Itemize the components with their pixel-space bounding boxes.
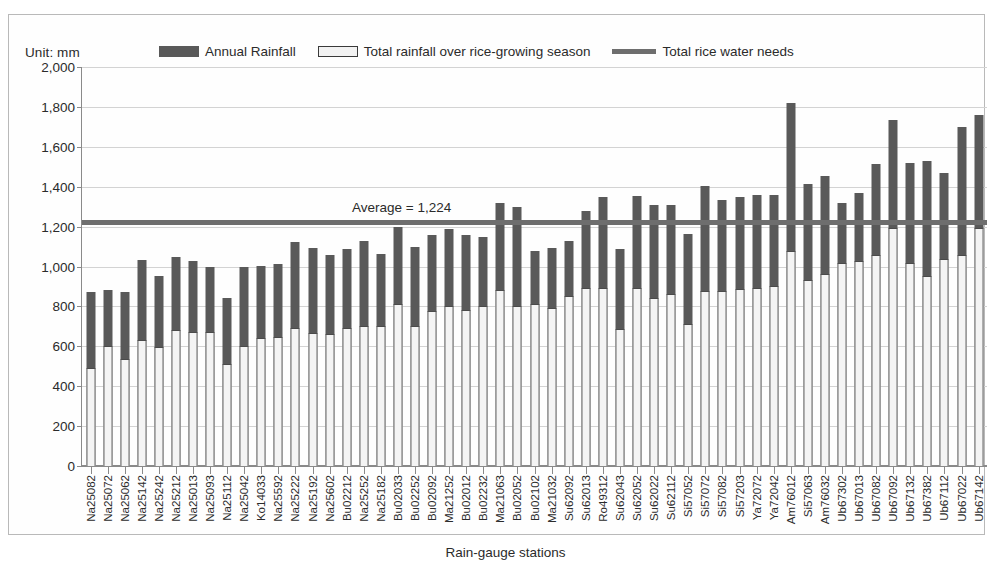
bar-group[interactable] (731, 67, 748, 466)
season-rainfall-bar[interactable] (684, 324, 693, 466)
bar-group[interactable] (424, 67, 441, 466)
bar-group[interactable] (167, 67, 184, 466)
bar-group[interactable] (82, 67, 99, 466)
season-rainfall-bar[interactable] (274, 337, 283, 466)
season-rainfall-bar[interactable] (889, 228, 898, 466)
season-rainfall-bar[interactable] (735, 289, 744, 466)
bar-group[interactable] (509, 67, 526, 466)
season-rainfall-bar[interactable] (479, 306, 488, 466)
bar-group[interactable] (765, 67, 782, 466)
bar-group[interactable] (116, 67, 133, 466)
season-rainfall-bar[interactable] (769, 286, 778, 466)
season-rainfall-bar[interactable] (171, 330, 180, 466)
season-rainfall-bar[interactable] (103, 346, 112, 466)
season-rainfall-bar[interactable] (906, 263, 915, 466)
season-rainfall-bar[interactable] (189, 332, 198, 466)
season-rainfall-bar[interactable] (803, 280, 812, 466)
bar-group[interactable] (953, 67, 970, 466)
season-rainfall-bar[interactable] (411, 326, 420, 466)
bar-group[interactable] (680, 67, 697, 466)
bar-group[interactable] (902, 67, 919, 466)
bar-group[interactable] (885, 67, 902, 466)
bar-group[interactable] (287, 67, 304, 466)
season-rainfall-bar[interactable] (308, 333, 317, 466)
bar-group[interactable] (475, 67, 492, 466)
bar-group[interactable] (304, 67, 321, 466)
bar-group[interactable] (338, 67, 355, 466)
bar-group[interactable] (833, 67, 850, 466)
season-rainfall-bar[interactable] (837, 263, 846, 466)
bar-group[interactable] (441, 67, 458, 466)
season-rainfall-bar[interactable] (325, 334, 334, 466)
season-rainfall-bar[interactable] (820, 274, 829, 466)
season-rainfall-bar[interactable] (581, 288, 590, 466)
bar-group[interactable] (253, 67, 270, 466)
bar-group[interactable] (184, 67, 201, 466)
bar-group[interactable] (458, 67, 475, 466)
bar-group[interactable] (270, 67, 287, 466)
season-rainfall-bar[interactable] (701, 291, 710, 466)
season-rainfall-bar[interactable] (223, 364, 232, 466)
bar-group[interactable] (936, 67, 953, 466)
bar-group[interactable] (355, 67, 372, 466)
bar-group[interactable] (389, 67, 406, 466)
bar-group[interactable] (629, 67, 646, 466)
season-rainfall-bar[interactable] (428, 311, 437, 466)
season-rainfall-bar[interactable] (513, 306, 522, 466)
season-rainfall-bar[interactable] (598, 288, 607, 466)
bar-group[interactable] (970, 67, 987, 466)
season-rainfall-bar[interactable] (940, 259, 949, 466)
season-rainfall-bar[interactable] (786, 251, 795, 466)
bar-group[interactable] (919, 67, 936, 466)
bar-group[interactable] (816, 67, 833, 466)
bar-group[interactable] (697, 67, 714, 466)
season-rainfall-bar[interactable] (359, 326, 368, 466)
season-rainfall-bar[interactable] (206, 332, 215, 466)
season-rainfall-bar[interactable] (120, 359, 129, 466)
bar-group[interactable] (799, 67, 816, 466)
season-rainfall-bar[interactable] (633, 288, 642, 466)
season-rainfall-bar[interactable] (923, 276, 932, 466)
bar-group[interactable] (99, 67, 116, 466)
bar-group[interactable] (202, 67, 219, 466)
season-rainfall-bar[interactable] (462, 310, 471, 466)
season-rainfall-bar[interactable] (564, 296, 573, 466)
bar-group[interactable] (868, 67, 885, 466)
season-rainfall-bar[interactable] (376, 326, 385, 466)
bar-group[interactable] (321, 67, 338, 466)
bar-group[interactable] (236, 67, 253, 466)
season-rainfall-bar[interactable] (291, 328, 300, 466)
bar-group[interactable] (406, 67, 423, 466)
season-rainfall-bar[interactable] (718, 291, 727, 466)
bar-group[interactable] (577, 67, 594, 466)
season-rainfall-bar[interactable] (615, 329, 624, 466)
bar-group[interactable] (663, 67, 680, 466)
season-rainfall-bar[interactable] (872, 255, 881, 466)
season-rainfall-bar[interactable] (530, 304, 539, 466)
bar-group[interactable] (611, 67, 628, 466)
bar-group[interactable] (150, 67, 167, 466)
season-rainfall-bar[interactable] (496, 290, 505, 466)
season-rainfall-bar[interactable] (667, 294, 676, 466)
bar-group[interactable] (714, 67, 731, 466)
bar-group[interactable] (372, 67, 389, 466)
season-rainfall-bar[interactable] (86, 368, 95, 466)
season-rainfall-bar[interactable] (257, 338, 266, 466)
bar-group[interactable] (526, 67, 543, 466)
season-rainfall-bar[interactable] (547, 308, 556, 466)
season-rainfall-bar[interactable] (393, 304, 402, 466)
bar-group[interactable] (543, 67, 560, 466)
bar-group[interactable] (748, 67, 765, 466)
season-rainfall-bar[interactable] (240, 346, 249, 466)
season-rainfall-bar[interactable] (650, 298, 659, 466)
season-rainfall-bar[interactable] (445, 306, 454, 466)
season-rainfall-bar[interactable] (342, 328, 351, 466)
season-rainfall-bar[interactable] (137, 340, 146, 466)
bar-group[interactable] (560, 67, 577, 466)
bar-group[interactable] (782, 67, 799, 466)
season-rainfall-bar[interactable] (855, 261, 864, 466)
bar-group[interactable] (133, 67, 150, 466)
bar-group[interactable] (492, 67, 509, 466)
season-rainfall-bar[interactable] (974, 228, 983, 466)
season-rainfall-bar[interactable] (957, 255, 966, 466)
